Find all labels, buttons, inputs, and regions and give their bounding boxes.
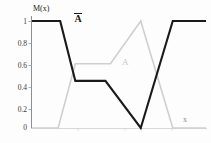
- plot-area: [0, 0, 211, 143]
- series-line-a: [32, 21, 206, 128]
- fuzzy-membership-chart: M(x) 1 0.8 0.6 0.4 0.2 0 A A x: [0, 0, 211, 143]
- series-line-a-complement: [32, 21, 206, 128]
